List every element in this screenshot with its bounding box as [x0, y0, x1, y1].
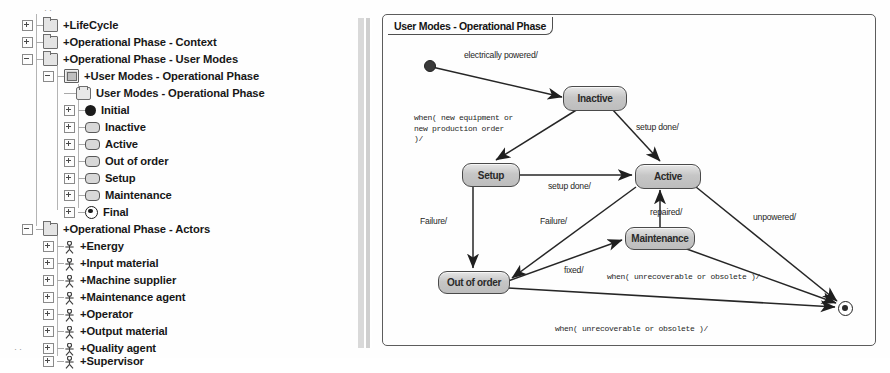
- tree-node-label: Maintenance: [105, 189, 172, 201]
- label-repaired: repaired/: [650, 207, 682, 217]
- tree-top-dots: ··: [44, 5, 54, 15]
- label-setup-done-top: setup done/: [636, 122, 679, 132]
- expand-icon[interactable]: [22, 20, 33, 31]
- state-machine-diagram-panel[interactable]: User Modes - Operational Phase: [340, 0, 890, 358]
- label-electrically-powered: electrically powered/: [464, 50, 538, 60]
- tree-connector: [78, 110, 85, 111]
- tree-node-maintenance[interactable]: Maintenance: [64, 186, 172, 204]
- state-setup[interactable]: Setup: [462, 163, 520, 187]
- state-icon: [85, 156, 100, 167]
- label-when-new-equipment: when( new equipment or new production or…: [414, 113, 513, 145]
- state-inactive[interactable]: Inactive: [563, 86, 627, 111]
- label-when-unrecoverable-mid: when( unrecoverable or obsolete )/: [607, 272, 760, 283]
- edge-initial-to-inactive: [432, 67, 562, 97]
- initial-state-icon: [85, 105, 96, 116]
- tree-node-label: +Energy: [80, 240, 124, 252]
- diagram-title: User Modes - Operational Phase: [388, 17, 553, 35]
- tree-node-label: +Operational Phase - Actors: [63, 223, 210, 235]
- tree-connector: [78, 212, 85, 213]
- expand-icon[interactable]: [64, 173, 75, 184]
- tree-node-final[interactable]: Final: [64, 203, 129, 221]
- tree-connector: [57, 314, 64, 315]
- tree-connector: [57, 297, 64, 298]
- tree-node-input-material[interactable]: +Input material: [43, 254, 158, 272]
- tree-node-out-of-order[interactable]: Out of order: [64, 152, 168, 170]
- tree-node-user-modes-operational-phase[interactable]: +User Modes - Operational Phase: [43, 67, 259, 85]
- expand-icon[interactable]: [64, 190, 75, 201]
- state-out-of-order[interactable]: Out of order: [438, 271, 510, 294]
- tree-connector: [57, 76, 64, 77]
- model-explorer-tree[interactable]: ·· ·· +LifeCycle+Operational Phase - Con…: [0, 0, 340, 358]
- tree-node-lifecycle[interactable]: +LifeCycle: [22, 16, 118, 34]
- state-active[interactable]: Active: [635, 164, 701, 189]
- initial-state-icon[interactable]: [424, 60, 436, 72]
- tree-node-supervisor[interactable]: +Supervisor: [43, 352, 144, 370]
- label-when-unrecoverable-bottom: when( unrecoverable or obsolete )/: [555, 324, 708, 335]
- collapse-icon[interactable]: [43, 71, 54, 82]
- actor-icon: [64, 274, 75, 287]
- tree-node-operational-phase-context[interactable]: +Operational Phase - Context: [22, 33, 217, 51]
- tree-connector: [57, 348, 64, 349]
- tree-node-label: Setup: [105, 172, 136, 184]
- tree-bottom-dots: ··: [14, 344, 24, 354]
- tree-node-operator[interactable]: +Operator: [43, 305, 133, 323]
- label-setup-done-mid: setup done/: [548, 181, 591, 191]
- tree-node-inactive[interactable]: Inactive: [64, 118, 146, 136]
- expand-icon[interactable]: [43, 275, 54, 286]
- collapse-icon[interactable]: [22, 224, 33, 235]
- tree-node-label: Out of order: [105, 155, 168, 167]
- expand-icon[interactable]: [43, 258, 54, 269]
- tree-connector: [57, 361, 64, 362]
- tree-node-label: User Modes - Operational Phase: [96, 87, 265, 99]
- tree-node-operational-phase-actors[interactable]: +Operational Phase - Actors: [22, 220, 210, 238]
- tree-node-label: +LifeCycle: [63, 19, 118, 31]
- tree-node-maintenance-agent[interactable]: +Maintenance agent: [43, 288, 185, 306]
- expand-icon[interactable]: [64, 105, 75, 116]
- tree-node-user-modes-operational-phase[interactable]: User Modes - Operational Phase: [64, 84, 265, 102]
- tree-connector: [57, 280, 64, 281]
- tree-node-machine-supplier[interactable]: +Machine supplier: [43, 271, 176, 289]
- tree-connector: [78, 195, 85, 196]
- tree-node-label: Inactive: [105, 121, 146, 133]
- tree-connector: [57, 331, 64, 332]
- tree-node-initial[interactable]: Initial: [64, 101, 130, 119]
- expand-icon[interactable]: [43, 292, 54, 303]
- state-icon: [85, 190, 100, 201]
- state-maintenance[interactable]: Maintenance: [625, 227, 695, 250]
- tree-node-output-material[interactable]: +Output material: [43, 322, 168, 340]
- tree-connector: [57, 263, 64, 264]
- tree-node-active[interactable]: Active: [64, 135, 138, 153]
- expand-icon[interactable]: [43, 356, 54, 367]
- state-icon: [85, 122, 100, 133]
- final-state-icon[interactable]: [838, 301, 853, 316]
- tree-node-energy[interactable]: +Energy: [43, 237, 124, 255]
- tree-node-label: Initial: [101, 104, 130, 116]
- edge-outoforder-to-final: [508, 288, 835, 307]
- expand-icon[interactable]: [43, 309, 54, 320]
- tree-node-operational-phase-user-modes[interactable]: +Operational Phase - User Modes: [22, 50, 238, 68]
- state-icon: [85, 139, 100, 150]
- state-out-of-order-label: Out of order: [447, 277, 501, 288]
- tree-rail-level1: [57, 66, 58, 210]
- package-icon: [43, 223, 58, 236]
- expand-icon[interactable]: [43, 241, 54, 252]
- package-icon: [43, 53, 58, 66]
- package-icon: [43, 36, 58, 49]
- expand-icon[interactable]: [64, 207, 75, 218]
- tree-connector: [78, 144, 85, 145]
- state-icon: [85, 173, 100, 184]
- tree-node-setup[interactable]: Setup: [64, 169, 136, 187]
- expand-icon[interactable]: [64, 139, 75, 150]
- tree-connector: [36, 229, 43, 230]
- actor-icon: [64, 355, 75, 368]
- package-icon: [43, 19, 58, 32]
- tree-connector: [78, 127, 85, 128]
- expand-icon[interactable]: [64, 156, 75, 167]
- expand-icon[interactable]: [22, 37, 33, 48]
- expand-icon[interactable]: [64, 122, 75, 133]
- expand-icon[interactable]: [43, 326, 54, 337]
- collapse-icon[interactable]: [22, 54, 33, 65]
- actor-icon: [64, 308, 75, 321]
- tree-node-label: +Supervisor: [80, 355, 144, 367]
- tree-node-label: +Machine supplier: [80, 274, 176, 286]
